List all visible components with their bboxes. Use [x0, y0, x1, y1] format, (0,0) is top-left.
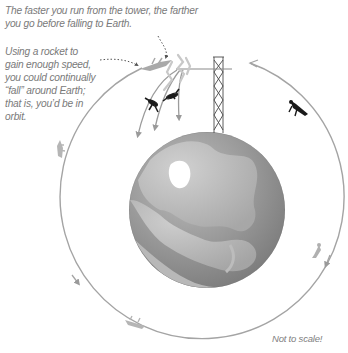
earth-globe-icon [129, 132, 285, 293]
rocket-person-orbit-icon [289, 100, 308, 116]
caption-not-to-scale: Not to scale! [272, 332, 348, 345]
orbit-arrow-icon [72, 275, 78, 283]
rocket-person-launch-icon [140, 58, 172, 71]
rocket-person-orbit-icon [312, 243, 321, 258]
rocket-person-orbit-icon [57, 140, 65, 158]
caption-rocket-orbit: Using a rocket to gain enough speed, you… [5, 45, 97, 123]
leader-arrow-left [100, 59, 137, 65]
radio-tower-icon [176, 57, 232, 133]
orbit-diagram: The faster you run from the tower, the f… [0, 0, 348, 353]
falling-trajectories [138, 70, 183, 135]
leader-arrow-top [158, 36, 166, 57]
caption-running-from-tower: The faster you run from the tower, the f… [5, 4, 205, 30]
falling-person-icon [145, 98, 158, 112]
motion-trails [164, 55, 190, 90]
